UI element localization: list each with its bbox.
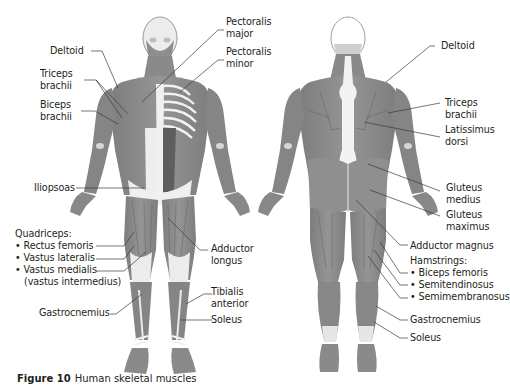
label-deltoid-anterior: Deltoid: [50, 45, 84, 57]
label-text: Soleus: [211, 314, 242, 326]
label-text: anterior: [211, 298, 248, 310]
label-iliopsoas: Iliopsoas: [34, 182, 75, 194]
label-text: brachii: [40, 111, 72, 123]
label-text: longus: [211, 255, 254, 267]
label-adductor-longus: Adductor longus: [211, 243, 254, 267]
label-gluteus-maximus: Gluteus maximus: [446, 209, 489, 233]
label-text: brachii: [445, 109, 478, 121]
label-text: Pectoralis: [226, 16, 271, 28]
label-text: major: [226, 28, 271, 40]
label-text: Quadriceps:: [15, 228, 121, 240]
label-text: minor: [226, 58, 271, 70]
label-quadriceps: Quadriceps: • Rectus femoris • Vastus la…: [15, 228, 121, 288]
label-text: • Biceps femoris: [410, 267, 510, 279]
label-text: maximus: [446, 221, 489, 233]
label-soleus-anterior: Soleus: [211, 314, 242, 326]
label-hamstrings: Hamstrings: • Biceps femoris • Semitendi…: [410, 255, 510, 303]
figure-caption: Figure 10Human skeletal muscles: [17, 373, 197, 385]
label-text: Pectoralis: [226, 46, 271, 58]
label-gluteus-medius: Gluteus medius: [446, 182, 482, 206]
label-text: • Rectus femoris: [15, 240, 121, 252]
label-text: Iliopsoas: [34, 182, 75, 194]
label-deltoid-posterior: Deltoid: [441, 40, 475, 52]
label-text: Gluteus: [446, 182, 482, 194]
label-triceps-brachii-posterior: Triceps brachii: [445, 97, 478, 121]
label-text: (vastus intermedius): [15, 276, 121, 288]
label-text: medius: [446, 194, 482, 206]
label-text: dorsi: [445, 136, 495, 148]
label-text: Adductor: [211, 243, 254, 255]
label-latissimus-dorsi: Latissimus dorsi: [445, 124, 495, 148]
label-text: • Vastus lateralis: [15, 252, 121, 264]
label-text: Latissimus: [445, 124, 495, 136]
label-text: Deltoid: [441, 40, 475, 52]
label-tibialis-anterior: Tibialis anterior: [211, 286, 248, 310]
label-text: Hamstrings:: [410, 255, 510, 267]
label-text: Triceps: [40, 68, 73, 80]
label-biceps-brachii: Biceps brachii: [40, 99, 72, 123]
caption-label: Figure 10: [17, 373, 71, 384]
label-gastrocnemius-anterior: Gastrocnemius: [39, 307, 110, 319]
label-text: Biceps: [40, 99, 72, 111]
label-text: Triceps: [445, 97, 478, 109]
label-text: • Semitendinosus: [410, 279, 510, 291]
label-pectoralis-major: Pectoralis major: [226, 16, 271, 40]
label-text: Gastrocnemius: [39, 307, 110, 319]
label-adductor-magnus: Adductor magnus: [410, 240, 494, 252]
label-text: Gastrocnemius: [410, 314, 481, 326]
label-text: • Semimembranosus: [410, 291, 510, 303]
label-text: Tibialis: [211, 286, 248, 298]
label-gastrocnemius-posterior: Gastrocnemius: [410, 314, 481, 326]
label-text: Deltoid: [50, 45, 84, 57]
label-pectoralis-minor: Pectoralis minor: [226, 46, 271, 70]
label-text: brachii: [40, 80, 73, 92]
label-text: Gluteus: [446, 209, 489, 221]
label-text: Adductor magnus: [410, 240, 494, 252]
caption-text: Human skeletal muscles: [75, 373, 197, 384]
label-text: Soleus: [410, 332, 441, 344]
label-text: • Vastus medialis: [15, 264, 121, 276]
label-triceps-brachii-anterior: Triceps brachii: [40, 68, 73, 92]
label-soleus-posterior: Soleus: [410, 332, 441, 344]
